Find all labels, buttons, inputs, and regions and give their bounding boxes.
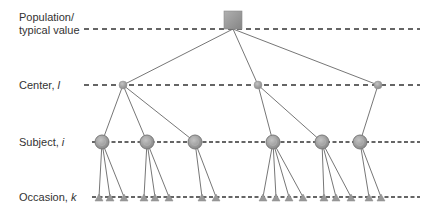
edge bbox=[258, 85, 322, 142]
subject-circle-node bbox=[140, 135, 154, 149]
tree-edges bbox=[99, 29, 381, 197]
edge bbox=[263, 142, 273, 197]
subject-circle-node bbox=[266, 135, 280, 149]
hierarchy-diagram bbox=[0, 0, 442, 209]
edge bbox=[147, 142, 155, 197]
center-circle-node bbox=[374, 81, 382, 89]
edge bbox=[123, 85, 195, 142]
subject-circle-node bbox=[353, 135, 367, 149]
edge bbox=[123, 85, 147, 142]
edge bbox=[102, 85, 123, 142]
edge bbox=[233, 29, 378, 85]
subject-circle-node bbox=[188, 135, 202, 149]
tree-nodes bbox=[95, 11, 385, 201]
edge bbox=[258, 85, 273, 142]
subject-circle-node bbox=[95, 135, 109, 149]
center-circle-node bbox=[119, 81, 127, 89]
edge bbox=[147, 142, 169, 197]
edge bbox=[123, 29, 233, 85]
subject-circle-node bbox=[315, 135, 329, 149]
edge bbox=[360, 142, 369, 197]
population-square-node bbox=[224, 11, 242, 29]
edge bbox=[102, 142, 110, 197]
occasion-triangle-node bbox=[285, 194, 293, 201]
edge bbox=[360, 85, 378, 142]
edge bbox=[102, 142, 124, 197]
occasion-triangle-node bbox=[259, 194, 267, 201]
edge bbox=[144, 142, 147, 197]
edge bbox=[360, 142, 381, 197]
occasion-triangle-node bbox=[272, 194, 280, 201]
center-circle-node bbox=[254, 81, 262, 89]
edge bbox=[273, 142, 303, 197]
edge bbox=[322, 142, 351, 197]
edge bbox=[99, 142, 102, 197]
